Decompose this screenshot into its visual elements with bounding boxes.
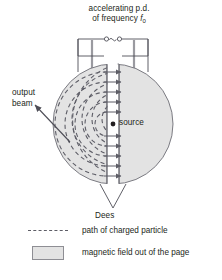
legend-item-path: path of charged particle <box>28 224 218 246</box>
dees-leader-left <box>100 184 113 208</box>
output-beam-line2: beam <box>12 99 33 108</box>
accelerating-pd-label: accelerating p.d. of frequency f0 <box>64 4 174 24</box>
legend-key-field <box>28 246 68 260</box>
source-point <box>111 122 116 127</box>
frequency-subscript: 0 <box>142 18 145 24</box>
legend-item-field: magnetic field out of the page <box>28 246 218 268</box>
legend: path of charged particle magnetic field … <box>28 224 218 268</box>
dees-leader-lines <box>100 184 126 208</box>
ac-terminal-left-top <box>104 37 108 41</box>
output-beam-label: output beam <box>12 88 35 109</box>
dees-leader-right <box>113 184 126 208</box>
dees-label: Dees <box>95 211 114 221</box>
source-label: source <box>119 118 144 128</box>
cyclotron-figure: accelerating p.d. of frequency f0 output… <box>0 0 222 280</box>
ac-terminal-right-top <box>117 37 121 41</box>
legend-label-path: path of charged particle <box>82 226 168 235</box>
legend-key-path <box>28 224 68 238</box>
gray-swatch-icon <box>32 246 64 260</box>
output-beam-line1: output <box>12 88 35 97</box>
accelerating-pd-line1: accelerating p.d. <box>89 4 150 13</box>
legend-label-field: magnetic field out of the page <box>82 248 189 257</box>
accelerating-pd-line2-prefix: of frequency <box>92 14 140 23</box>
dashed-line-icon <box>28 230 68 231</box>
